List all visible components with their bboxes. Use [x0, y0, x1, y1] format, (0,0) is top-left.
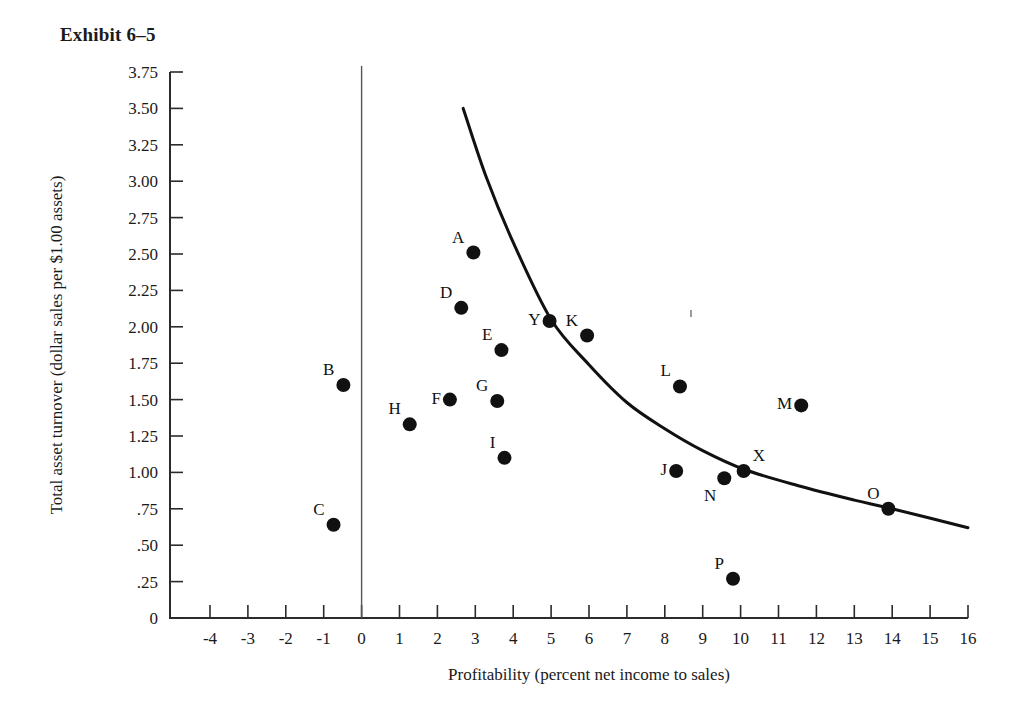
x-tick-label: 1	[395, 629, 404, 648]
y-tick-label: 3.25	[128, 136, 158, 155]
data-point-dot	[580, 329, 594, 343]
x-tick-label: 12	[808, 629, 825, 648]
x-tick-label: 8	[661, 629, 670, 648]
data-point-label: Y	[528, 310, 540, 329]
y-tick-label: 0	[150, 609, 159, 628]
data-point-label: A	[452, 228, 465, 247]
data-point-label: F	[431, 389, 440, 408]
data-point-dot	[336, 378, 350, 392]
data-point-label: P	[715, 554, 724, 573]
x-tick-label: 7	[623, 629, 632, 648]
data-point-label: X	[753, 446, 765, 465]
x-tick-label: 13	[846, 629, 863, 648]
data-point-dot	[327, 518, 341, 532]
y-tick-label: .25	[137, 573, 158, 592]
data-point-dot	[403, 417, 417, 431]
y-tick-label: .75	[137, 500, 158, 519]
y-tick-label: 2.25	[128, 281, 158, 300]
data-point-dot	[466, 246, 480, 260]
x-tick-label: 14	[884, 629, 902, 648]
data-point-dot	[726, 572, 740, 586]
y-tick-label: 2.50	[128, 245, 158, 264]
scan-speck	[690, 310, 692, 317]
x-tick-label: -1	[317, 629, 331, 648]
y-tick-label: 1.50	[128, 391, 158, 410]
y-axis-title: Total asset turnover (dollar sales per $…	[47, 176, 66, 515]
data-point-dot	[673, 379, 687, 393]
y-tick-label: 3.00	[128, 172, 158, 191]
data-point-dot	[497, 451, 511, 465]
x-tick-label: 11	[770, 629, 786, 648]
x-tick-label: 10	[732, 629, 749, 648]
chart-canvas: 3.753.503.253.002.752.502.252.001.751.50…	[0, 0, 1031, 706]
data-point-label: B	[323, 360, 334, 379]
x-tick-label: -3	[241, 629, 255, 648]
y-tick-label: 1.25	[128, 427, 158, 446]
data-point-dot	[443, 393, 457, 407]
x-axis-title: Profitability (percent net income to sal…	[448, 665, 730, 684]
scatter-chart: 3.753.503.253.002.752.502.252.001.751.50…	[0, 0, 1031, 706]
data-point-label: H	[388, 399, 400, 418]
x-tick-label: -4	[203, 629, 218, 648]
data-point-dot	[794, 398, 808, 412]
x-tick-label: 6	[585, 629, 594, 648]
data-point-dot	[737, 464, 751, 478]
data-point-dot	[490, 394, 504, 408]
data-point-label: E	[482, 325, 492, 344]
x-tick-label: 2	[433, 629, 442, 648]
x-tick-label: 16	[960, 629, 977, 648]
data-point-label: M	[777, 394, 792, 413]
data-point-dot	[717, 471, 731, 485]
data-point-dot	[543, 314, 557, 328]
data-point-dot	[881, 502, 895, 516]
y-tick-label: 1.75	[128, 354, 158, 373]
data-point-label: D	[440, 283, 452, 302]
data-point-label: G	[476, 376, 488, 395]
x-tick-label: 3	[471, 629, 480, 648]
data-point-dot	[454, 301, 468, 315]
x-tick-label: 4	[509, 629, 518, 648]
y-tick-label: 2.00	[128, 318, 158, 337]
data-point-label: C	[313, 500, 324, 519]
x-tick-label: 0	[357, 629, 366, 648]
x-tick-label: -2	[279, 629, 293, 648]
x-tick-label: 5	[547, 629, 556, 648]
data-point-label: I	[490, 433, 496, 452]
data-point-label: O	[867, 484, 879, 503]
y-tick-label: 2.75	[128, 209, 158, 228]
data-point-dot	[494, 343, 508, 357]
y-tick-label: .50	[137, 536, 158, 555]
x-tick-label: 15	[922, 629, 939, 648]
x-tick-label: 9	[698, 629, 707, 648]
data-point-dot	[669, 464, 683, 478]
data-point-label: J	[661, 460, 668, 479]
y-tick-label: 1.00	[128, 463, 158, 482]
data-point-label: K	[566, 311, 579, 330]
data-point-label: N	[704, 486, 716, 505]
y-tick-label: 3.50	[128, 99, 158, 118]
y-tick-label: 3.75	[128, 63, 158, 82]
data-point-label: L	[661, 361, 671, 380]
